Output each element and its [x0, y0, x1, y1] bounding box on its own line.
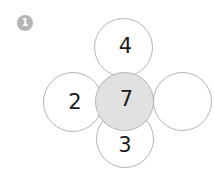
- question-number: 1: [22, 18, 29, 28]
- center-value: 7: [120, 89, 133, 110]
- puzzle-canvas: 1 4 2 3 7: [0, 0, 214, 170]
- petal-value-bottom: 3: [118, 135, 131, 156]
- petal-circle-left: 2: [43, 72, 103, 132]
- petal-circle-right-answer-slot[interactable]: [153, 72, 212, 131]
- question-number-badge: 1: [17, 15, 33, 31]
- petal-circle-top: 4: [94, 18, 153, 77]
- center-circle: 7: [95, 72, 154, 131]
- petal-value-top: 4: [119, 36, 132, 57]
- petal-value-left: 2: [68, 92, 81, 113]
